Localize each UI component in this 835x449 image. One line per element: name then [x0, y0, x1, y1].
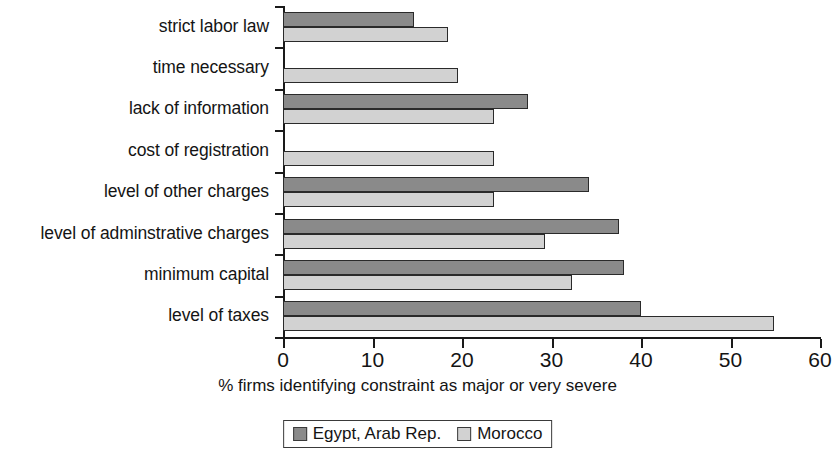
- x-axis-tick-label: 60: [808, 349, 831, 370]
- x-axis-tick-label: 50: [719, 349, 742, 370]
- x-axis-tick: [462, 339, 464, 348]
- x-axis-tick: [552, 339, 554, 348]
- chart-legend: Egypt, Arab Rep. Morocco: [283, 420, 553, 448]
- x-axis-tick: [820, 339, 822, 348]
- bar: [283, 94, 528, 109]
- category-label: cost of registration: [128, 142, 269, 160]
- y-axis-tick: [275, 6, 284, 8]
- bar-chart: strict labor lawtime necessarylack of in…: [0, 0, 835, 449]
- bar: [283, 109, 494, 124]
- y-axis-tick: [275, 89, 284, 91]
- bar: [283, 260, 624, 275]
- y-axis-tick: [275, 130, 284, 132]
- y-axis-tick: [275, 296, 284, 298]
- category-axis-labels: strict labor lawtime necessarylack of in…: [0, 6, 277, 337]
- y-axis-tick: [275, 337, 284, 339]
- legend-swatch-icon-egypt: [293, 427, 307, 441]
- bar: [283, 234, 545, 249]
- legend-entry-egypt: Egypt, Arab Rep.: [293, 425, 442, 442]
- x-axis-tick: [641, 339, 643, 348]
- category-label: level of other charges: [104, 183, 269, 201]
- y-axis-tick: [275, 172, 284, 174]
- bar: [283, 68, 458, 83]
- bar: [283, 316, 774, 331]
- bar: [283, 301, 641, 316]
- y-axis-tick: [275, 47, 284, 49]
- x-axis-title: % firms identifying constraint as major …: [0, 377, 835, 394]
- y-axis-tick: [275, 254, 284, 256]
- x-axis-tick-label: 30: [540, 349, 563, 370]
- x-axis-tick: [373, 339, 375, 348]
- legend-swatch-icon-morocco: [457, 427, 471, 441]
- bar: [283, 151, 494, 166]
- bar: [283, 12, 414, 27]
- legend-entry-morocco: Morocco: [457, 425, 542, 442]
- x-axis-tick-label: 40: [629, 349, 652, 370]
- bar: [283, 177, 589, 192]
- plot-area: [283, 6, 820, 337]
- bar: [283, 27, 448, 42]
- x-axis-tick-label: 20: [450, 349, 473, 370]
- legend-label-morocco: Morocco: [477, 425, 542, 442]
- bar: [283, 192, 494, 207]
- category-label: time necessary: [153, 59, 269, 77]
- x-axis-tick-label: 10: [361, 349, 384, 370]
- legend-label-egypt: Egypt, Arab Rep.: [313, 425, 442, 442]
- bar: [283, 219, 619, 234]
- y-axis-tick: [275, 213, 284, 215]
- category-label: strict labor law: [159, 18, 269, 36]
- category-label: lack of information: [129, 100, 269, 118]
- x-axis-tick: [283, 339, 285, 348]
- category-label: level of adminstrative charges: [41, 225, 270, 243]
- bar: [283, 275, 572, 290]
- category-label: level of taxes: [168, 307, 269, 325]
- x-axis-tick-label: 0: [277, 349, 289, 370]
- category-label: minimum capital: [144, 266, 269, 284]
- x-axis-tick: [731, 339, 733, 348]
